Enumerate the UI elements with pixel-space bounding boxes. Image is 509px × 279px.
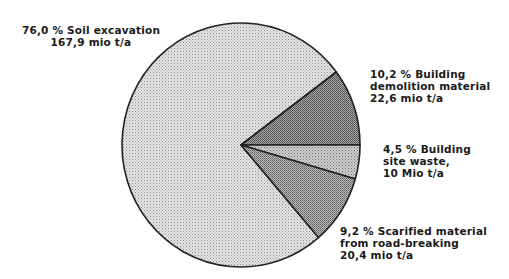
label-site-waste-line1: 4,5 % Building xyxy=(383,143,471,155)
label-scarified-line3: 20,4 mio t/a xyxy=(340,249,487,261)
pie-slices xyxy=(122,23,360,267)
label-demolition-line2: demolition material xyxy=(370,80,490,92)
label-building-site-waste: 4,5 % Building site waste, 10 Mio t/a xyxy=(383,143,471,179)
label-demolition-line3: 22,6 mio t/a xyxy=(370,92,490,104)
label-soil-excavation: 76,0 % Soil excavation 167,9 mio t/a xyxy=(6,24,176,48)
label-scarified-line1: 9,2 % Scarified material xyxy=(340,225,487,237)
label-scarified-material: 9,2 % Scarified material from road-break… xyxy=(340,225,487,261)
label-demolition-line1: 10,2 % Building xyxy=(370,68,490,80)
label-soil-line1: 76,0 % Soil excavation xyxy=(6,24,176,36)
label-site-waste-line3: 10 Mio t/a xyxy=(383,167,471,179)
label-site-waste-line2: site waste, xyxy=(383,155,471,167)
label-building-demolition: 10,2 % Building demolition material 22,6… xyxy=(370,68,490,104)
label-soil-line2: 167,9 mio t/a xyxy=(6,36,176,48)
label-scarified-line2: from road-breaking xyxy=(340,237,487,249)
